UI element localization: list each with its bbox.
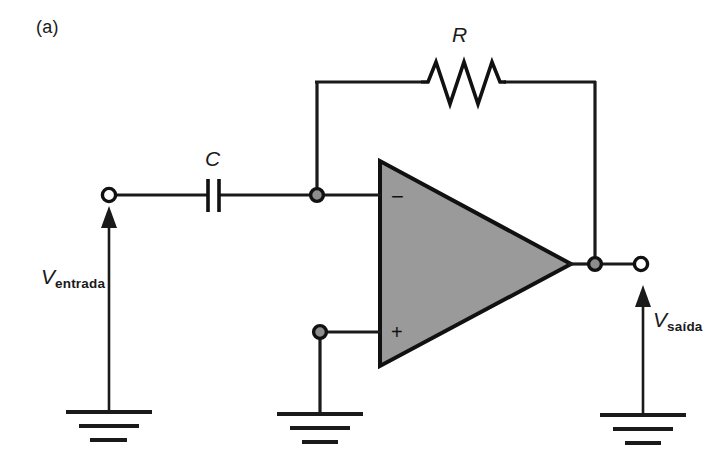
input-capacitor [208, 179, 219, 212]
wire-group [116, 81, 634, 414]
noninverting-input-sign: + [391, 322, 403, 342]
inverting-junction-dot [311, 189, 324, 202]
input-voltage-subscript: entrada [55, 276, 105, 291]
output-arrow-head [635, 285, 651, 307]
input-terminal-node[interactable] [102, 188, 115, 201]
output-voltage-subscript: saída [667, 319, 703, 334]
feedback-resistor [421, 62, 506, 104]
output-voltage-arrow [635, 285, 651, 415]
operational-amplifier [380, 161, 571, 366]
output-junction-dot [589, 258, 602, 271]
circuit-schematic [0, 0, 723, 476]
noninverting-junction-dot [314, 326, 327, 339]
resistor-label: R [452, 24, 467, 45]
output-voltage-symbol: V [653, 308, 667, 331]
opamp-triangle-body [380, 161, 571, 366]
capacitor-label: C [205, 148, 220, 169]
resistor-zigzag [421, 62, 506, 104]
ground-input [66, 412, 152, 440]
inverting-input-sign: − [391, 186, 404, 208]
input-voltage-arrow [101, 206, 117, 412]
panel-label: (a) [36, 18, 59, 36]
input-voltage-label: Ventrada [41, 266, 105, 287]
figure-container: (a) R C Ventrada Vsaída − + [0, 0, 723, 476]
output-voltage-label: Vsaída [653, 309, 703, 330]
ground-output [600, 415, 686, 443]
input-voltage-symbol: V [41, 265, 55, 288]
input-arrow-head [101, 206, 117, 228]
ground-noninverting [277, 414, 363, 442]
output-terminal-node[interactable] [634, 257, 647, 270]
